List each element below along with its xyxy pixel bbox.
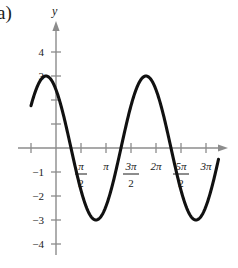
x-tick-label-two-pi: 2π [150,160,162,172]
x-axis-arrowhead [218,144,228,151]
y-tick-label-4: 4 [39,46,45,58]
y-tick-label-minus-2: −2 [32,190,44,202]
sinusoid-plot: 4 3 −1 −2 −3 −4 π 2 π 3π 2 2π 5π 2 [0,0,238,268]
y-tick-label-minus-1: −1 [32,166,44,178]
y-axis-arrowhead [52,21,59,31]
x-tick-label-three-half-pi-numerator: 3π [124,160,137,172]
x-tick-label-half-pi-numerator: π [78,160,84,172]
y-tick-label-minus-3: −3 [32,214,44,226]
y-tick-label-minus-4: −4 [32,238,44,250]
math-figure-panel: a) y [0,0,238,268]
x-tick-label-pi: π [103,160,109,172]
x-tick-label-three-half-pi: 3π 2 [123,160,139,189]
x-tick-label-three-pi: 3π [199,160,212,172]
x-tick-label-three-half-pi-denominator: 2 [128,177,134,189]
